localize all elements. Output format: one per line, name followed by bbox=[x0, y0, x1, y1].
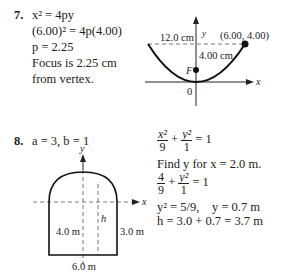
base-label: 6.0 m bbox=[72, 261, 96, 272]
width-label: 12.0 cm bbox=[160, 32, 194, 43]
origin-label: 0 bbox=[187, 86, 192, 97]
p7-line-5: from vertex. bbox=[32, 72, 94, 86]
y-axis-label-8: y bbox=[79, 143, 85, 154]
x-axis-label: x bbox=[255, 76, 261, 87]
y-axis-label: y bbox=[201, 28, 206, 38]
p7-line-2: (6.00)² = 4p(4.00) bbox=[32, 24, 122, 38]
p8-eq3-left: y² = 5/9, bbox=[157, 200, 199, 214]
parabola-diagram: y x 12.0 cm (6.00, 4.00) 4.00 cm F 0 bbox=[140, 10, 287, 120]
p7-line-4: Focus is 2.25 cm bbox=[32, 56, 117, 70]
p7-line-1: x² = 4py bbox=[32, 8, 74, 22]
p8-eq2: 49 + y²1 = 1 bbox=[157, 171, 209, 196]
h-label: h bbox=[101, 213, 106, 224]
problem-7-number: 7. bbox=[14, 8, 23, 22]
p8-eq4: h = 3.0 + 0.7 = 3.7 m bbox=[157, 214, 263, 228]
x-axis-label-8: x bbox=[141, 196, 147, 207]
p8-find: Find y for x = 2.0 m. bbox=[157, 157, 261, 171]
p8-eq1: x²9 + y²1 = 1 bbox=[157, 128, 212, 153]
left-height-label: 4.0 m bbox=[56, 226, 80, 237]
height-label: 4.00 cm bbox=[199, 50, 233, 61]
focus-label: F bbox=[185, 65, 193, 76]
right-height-label: 3.0 m bbox=[120, 226, 144, 237]
arch-diagram: y x 4.0 m h 3.0 m 6.0 m bbox=[0, 140, 150, 277]
point-label: (6.00, 4.00) bbox=[220, 30, 269, 42]
p7-line-3: p = 2.25 bbox=[32, 40, 73, 54]
p8-eq3-right: y = 0.7 m bbox=[212, 200, 260, 214]
